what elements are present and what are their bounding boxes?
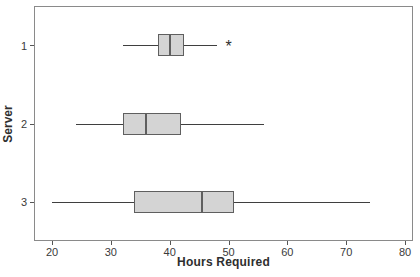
x-tick-mark [405, 241, 406, 245]
x-tick-label: 50 [222, 246, 234, 258]
x-tick-label: 40 [164, 246, 176, 258]
y-tick-label: 2 [21, 118, 27, 130]
x-tick-mark [52, 241, 53, 245]
x-tick-label: 80 [399, 246, 411, 258]
y-tick-label: 1 [21, 40, 27, 52]
x-tick-label: 70 [340, 246, 352, 258]
median-line [201, 191, 203, 213]
x-tick-mark [111, 241, 112, 245]
y-axis-label: Server [1, 69, 15, 179]
median-line [145, 113, 147, 135]
x-tick-mark [287, 241, 288, 245]
x-tick-mark [346, 241, 347, 245]
outlier-marker: * [225, 43, 231, 51]
x-tick-label: 60 [281, 246, 293, 258]
x-tick-mark [170, 241, 171, 245]
x-tick-label: 20 [46, 246, 58, 258]
y-tick-mark [30, 45, 34, 46]
box [158, 34, 184, 56]
x-tick-mark [229, 241, 230, 245]
median-line [169, 34, 171, 56]
boxplot-chart: Server Hours Required 20304050607080123* [0, 0, 420, 277]
x-tick-label: 30 [105, 246, 117, 258]
y-tick-label: 3 [21, 196, 27, 208]
y-tick-mark [30, 124, 34, 125]
box [134, 191, 234, 213]
y-tick-mark [30, 202, 34, 203]
box [123, 113, 182, 135]
